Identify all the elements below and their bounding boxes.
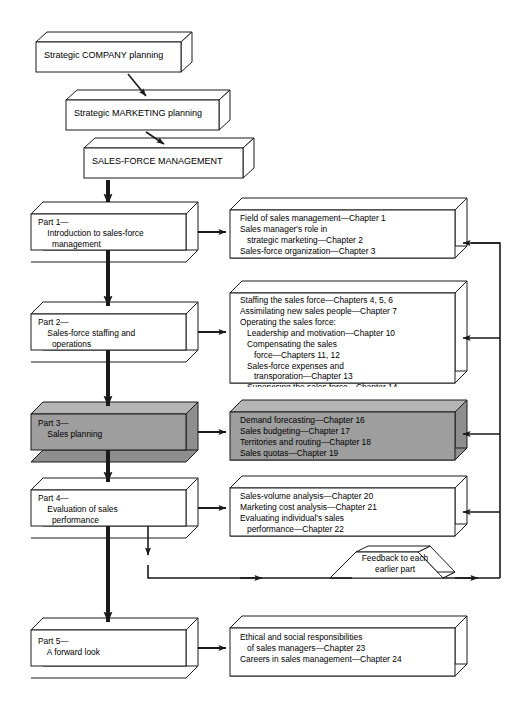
flowchart-svg: Strategic COMPANY planning Strategic MAR… bbox=[0, 0, 530, 720]
label-feedback: Feedback to each earlier part bbox=[340, 553, 450, 575]
label-strategic-company-planning: Strategic COMPANY planning bbox=[44, 50, 184, 62]
chapters-part-5: Ethical and social responsibilities of s… bbox=[240, 632, 462, 665]
chapters-part-4: Sales-volume analysis—Chapter 20 Marketi… bbox=[240, 491, 462, 535]
line-feedback-riser bbox=[471, 243, 500, 578]
chapters-part-1: Field of sales management—Chapter 1 Sale… bbox=[240, 213, 462, 257]
label-part-4: Part 4— Evaluation of sales performance bbox=[38, 493, 188, 526]
chapters-part-3: Demand forecasting—Chapter 16 Sales budg… bbox=[240, 415, 462, 459]
diagram-canvas: Strategic COMPANY planning Strategic MAR… bbox=[0, 0, 530, 720]
label-part-2: Part 2— Sales-force staffing and operati… bbox=[38, 317, 188, 350]
line-feedback-to-parallelogram bbox=[148, 565, 352, 578]
label-part-5: Part 5— A forward look bbox=[38, 636, 188, 658]
label-part-1: Part 1— Introduction to sales-force mana… bbox=[38, 217, 188, 250]
label-part-3: Part 3— Sales planning bbox=[38, 418, 188, 440]
label-strategic-marketing-planning: Strategic MARKETING planning bbox=[74, 108, 224, 120]
label-sales-force-management: SALES-FORCE MANAGEMENT bbox=[92, 156, 248, 168]
chapters-part-2: Staffing the sales force—Chapters 4, 5, … bbox=[240, 295, 462, 387]
